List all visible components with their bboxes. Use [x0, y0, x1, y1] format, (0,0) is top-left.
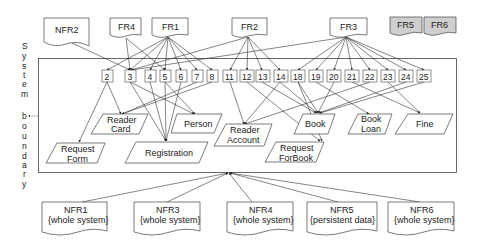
use-case-25: 25 [417, 70, 431, 82]
use-case-11: 11 [223, 70, 237, 82]
svg-text:4: 4 [148, 72, 153, 82]
svg-text:13: 13 [258, 72, 268, 82]
svg-text:11: 11 [225, 72, 234, 82]
svg-text:y: y [22, 179, 27, 189]
system-boundary-label: S y s t e m b o u n d a r y [21, 41, 38, 189]
req-doc-fr5: FR5 [390, 17, 422, 35]
svg-text:y: y [22, 51, 27, 61]
svg-text:25: 25 [419, 72, 429, 82]
svg-text:23: 23 [383, 72, 393, 82]
svg-text:FR2: FR2 [241, 22, 258, 32]
svg-text:m: m [21, 89, 28, 99]
entity-request-forbook: Request ForBook [265, 142, 324, 163]
req-doc-nfr1: NFR1 {whole system} [42, 202, 109, 235]
svg-text:5: 5 [163, 72, 168, 82]
svg-text:2: 2 [105, 72, 110, 82]
req-doc-fr3: FR3 [330, 18, 367, 37]
use-case-19: 19 [309, 70, 323, 82]
svg-text:{whole system}: {whole system} [48, 215, 109, 225]
svg-text:21: 21 [347, 72, 357, 82]
svg-text:Fine: Fine [416, 119, 434, 129]
use-case-21: 21 [345, 70, 359, 82]
svg-text:r: r [23, 169, 26, 179]
req-doc-nfr3: NFR3 {whole system} [134, 202, 201, 235]
svg-text:Loan: Loan [361, 124, 381, 134]
use-case-20: 20 [327, 70, 341, 82]
svg-text:3: 3 [128, 72, 133, 82]
use-case-23: 23 [381, 70, 395, 82]
entity-registration: Registration [125, 142, 208, 163]
svg-text:Person: Person [184, 119, 213, 129]
use-case-18: 18 [291, 70, 305, 82]
svg-text:Request: Request [280, 143, 314, 153]
svg-text:Card: Card [111, 124, 131, 134]
svg-text:Book: Book [361, 114, 382, 124]
svg-text:FR1: FR1 [162, 22, 179, 32]
use-case-5: 5 [160, 70, 171, 82]
svg-text:{whole system}: {whole system} [233, 215, 294, 225]
svg-text:7: 7 [195, 72, 200, 82]
entity-book-loan: Book Loan [348, 114, 392, 134]
use-case-2: 2 [102, 70, 113, 82]
svg-text:b: b [22, 111, 27, 121]
use-case-14: 14 [274, 70, 288, 82]
svg-text:Request: Request [61, 144, 95, 154]
svg-text:6: 6 [179, 72, 184, 82]
entity-reader-account: Reader Account [214, 124, 272, 146]
svg-text:o: o [22, 121, 27, 131]
req-doc-nfr5: NFR5 {persistent data} [307, 202, 377, 235]
svg-text:NFR1: NFR1 [64, 205, 88, 215]
traceability-diagram: S y s t e m b o u n d a r y [0, 0, 478, 246]
svg-text:S: S [22, 41, 28, 51]
req-doc-fr1: FR1 [152, 18, 188, 37]
svg-text:{whole system}: {whole system} [394, 215, 455, 225]
svg-text:NFR2: NFR2 [55, 25, 79, 35]
use-case-boxes: 2 3 4 5 6 7 8 11 12 13 14 18 19 20 21 22… [102, 70, 431, 82]
svg-text:Reader: Reader [230, 125, 260, 135]
svg-text:FR4: FR4 [118, 22, 135, 32]
req-doc-nfr6: NFR6 {whole system} [388, 202, 455, 235]
svg-text:Account: Account [227, 135, 260, 145]
svg-text:ForBook: ForBook [279, 153, 314, 163]
req-doc-fr2: FR2 [232, 18, 267, 37]
svg-text:FR6: FR6 [431, 20, 448, 30]
req-doc-nfr4: NFR4 {whole system} [227, 202, 294, 235]
svg-text:22: 22 [365, 72, 375, 82]
svg-text:19: 19 [311, 72, 321, 82]
use-case-8: 8 [207, 70, 218, 82]
svg-text:FR3: FR3 [340, 22, 357, 32]
use-case-6: 6 [176, 70, 187, 82]
use-case-22: 22 [363, 70, 377, 82]
svg-text:{persistent data}: {persistent data} [310, 215, 375, 225]
svg-text:e: e [22, 79, 27, 89]
svg-text:14: 14 [276, 72, 286, 82]
use-case-4: 4 [145, 70, 156, 82]
svg-text:FR5: FR5 [397, 20, 414, 30]
svg-text:NFR6: NFR6 [410, 205, 434, 215]
svg-text:Registration: Registration [145, 148, 193, 158]
use-case-12: 12 [240, 70, 254, 82]
use-case-3: 3 [125, 70, 136, 82]
svg-text:NFR5: NFR5 [330, 205, 354, 215]
svg-text:u: u [22, 131, 27, 141]
svg-text:{whole system}: {whole system} [140, 215, 201, 225]
entity-book: Book [294, 114, 335, 134]
svg-text:12: 12 [242, 72, 252, 82]
entity-reader-card: Reader Card [91, 114, 148, 134]
svg-text:20: 20 [329, 72, 339, 82]
svg-text:8: 8 [210, 72, 215, 82]
entity-fine: Fine [395, 114, 453, 134]
use-case-7: 7 [192, 70, 203, 82]
use-case-24: 24 [399, 70, 413, 82]
svg-text:18: 18 [293, 72, 303, 82]
svg-text:24: 24 [401, 72, 411, 82]
req-doc-fr6: FR6 [424, 17, 456, 35]
entity-person: Person [171, 114, 222, 133]
svg-text:Form: Form [67, 154, 88, 164]
req-doc-nfr2: NFR2 [44, 18, 89, 46]
req-doc-fr4: FR4 [110, 18, 141, 37]
svg-text:NFR4: NFR4 [249, 205, 273, 215]
use-case-13: 13 [256, 70, 270, 82]
svg-text:n: n [22, 141, 27, 151]
entity-request-form: Request Form [46, 143, 105, 164]
